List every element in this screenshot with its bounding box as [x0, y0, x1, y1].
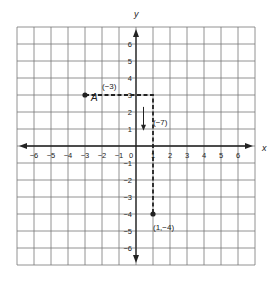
- point-end: [150, 211, 155, 216]
- x-tick-label: −1: [115, 151, 124, 160]
- x-axis-left-arrow-icon: [19, 143, 27, 149]
- y-tick-label: 2: [128, 108, 132, 117]
- point-A: [82, 92, 87, 97]
- point-a-label: A: [90, 92, 98, 103]
- x-tick-label: 2: [168, 151, 172, 160]
- y-axis-down-arrow-icon: [133, 255, 139, 263]
- x-tick-label: −4: [64, 151, 73, 160]
- y-tick-label: 6: [128, 40, 132, 49]
- y-tick-label: −2: [123, 176, 132, 185]
- y-tick-label: 5: [128, 57, 132, 66]
- coordinate-plane: −6−5−4−3−2−10123456654321−1−2−3−4−5−6 x …: [0, 0, 276, 286]
- x-tick-label: 6: [236, 151, 240, 160]
- x-tick-label: 4: [202, 151, 206, 160]
- y-tick-label: −6: [123, 244, 132, 253]
- endpoint-label: (1,−4): [153, 223, 174, 232]
- y-tick-label: −1: [123, 159, 132, 168]
- y-tick-label: −5: [123, 227, 132, 236]
- vertical-move-label: (−7): [153, 118, 168, 127]
- y-tick-label: −4: [123, 210, 132, 219]
- y-tick-label: −3: [123, 193, 132, 202]
- x-axis-label: x: [261, 143, 267, 153]
- y-tick-label: 4: [128, 74, 132, 83]
- down-arrowhead-icon: [141, 125, 146, 131]
- horizontal-move-label: (−3): [102, 82, 117, 91]
- y-axis-label: y: [133, 9, 139, 19]
- x-tick-label: −6: [30, 151, 39, 160]
- x-tick-label: −2: [98, 151, 107, 160]
- x-axis-right-arrow-icon: [245, 143, 253, 149]
- x-tick-label: −3: [81, 151, 90, 160]
- y-tick-label: 1: [128, 125, 132, 134]
- axes: [19, 29, 253, 263]
- x-tick-label: 3: [185, 151, 189, 160]
- x-tick-label: −5: [47, 151, 56, 160]
- x-tick-label: 5: [219, 151, 223, 160]
- y-axis-up-arrow-icon: [133, 29, 139, 37]
